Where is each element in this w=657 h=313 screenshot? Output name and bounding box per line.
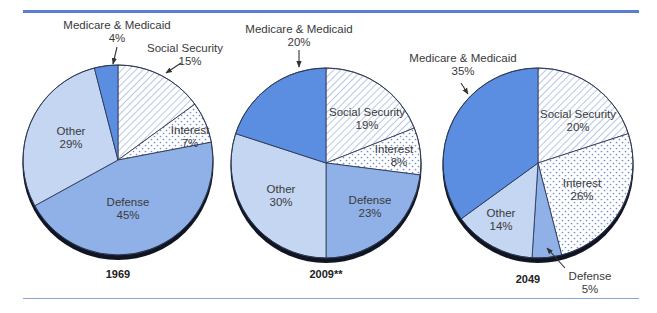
slice-label-other: Other14% xyxy=(487,207,516,232)
pie-2009: Medicare & Medicaid20%Social Security19%… xyxy=(231,23,422,280)
callout-arrow-icon xyxy=(461,83,468,94)
pie-1969: Medicare & Medicaid4%Social Security15%I… xyxy=(23,19,224,280)
label-percent: 19% xyxy=(355,119,378,131)
year-label: 2009** xyxy=(309,268,343,280)
label-percent: 20% xyxy=(566,121,589,133)
label-name: Social Security xyxy=(147,42,223,54)
label-percent: 23% xyxy=(358,207,381,219)
label-percent: 8% xyxy=(391,156,408,168)
label-name: Interest xyxy=(375,143,414,155)
callout-arrow-icon xyxy=(166,63,181,73)
label-percent: 45% xyxy=(116,209,139,221)
label-name: Other xyxy=(487,207,516,219)
slice-label-other: Other30% xyxy=(267,183,296,208)
label-percent: 26% xyxy=(570,190,593,202)
label-percent: 5% xyxy=(582,283,599,295)
year-label: 1969 xyxy=(106,268,130,280)
label-percent: 7% xyxy=(182,137,199,149)
label-name: Medicare & Medicaid xyxy=(245,23,352,35)
label-name: Defense xyxy=(107,196,150,208)
callout-arrow-icon xyxy=(113,47,117,64)
label-percent: 4% xyxy=(109,32,126,44)
label-percent: 29% xyxy=(59,138,82,150)
label-percent: 20% xyxy=(287,36,310,48)
year-label: 2049 xyxy=(516,273,540,285)
label-name: Medicare & Medicaid xyxy=(63,19,170,31)
slice-label-social-security: Social Security15% xyxy=(147,42,223,73)
label-name: Social Security xyxy=(540,108,616,120)
label-name: Interest xyxy=(171,124,210,136)
label-percent: 15% xyxy=(178,55,201,67)
label-name: Defense xyxy=(569,270,612,282)
label-percent: 14% xyxy=(489,220,512,232)
label-name: Other xyxy=(57,125,86,137)
label-name: Interest xyxy=(563,177,602,189)
label-name: Other xyxy=(267,183,296,195)
label-name: Defense xyxy=(349,194,392,206)
slice-label-medicare-medicaid: Medicare & Medicaid20% xyxy=(245,23,352,67)
label-name: Social Security xyxy=(329,106,405,118)
label-percent: 30% xyxy=(269,196,292,208)
pie-charts: Medicare & Medicaid4%Social Security15%I… xyxy=(0,0,657,313)
label-name: Medicare & Medicaid xyxy=(409,52,516,64)
label-percent: 35% xyxy=(451,65,474,77)
slice-label-other: Other29% xyxy=(57,125,86,150)
pie-2049: Medicare & Medicaid35%Social Security20%… xyxy=(409,52,633,295)
